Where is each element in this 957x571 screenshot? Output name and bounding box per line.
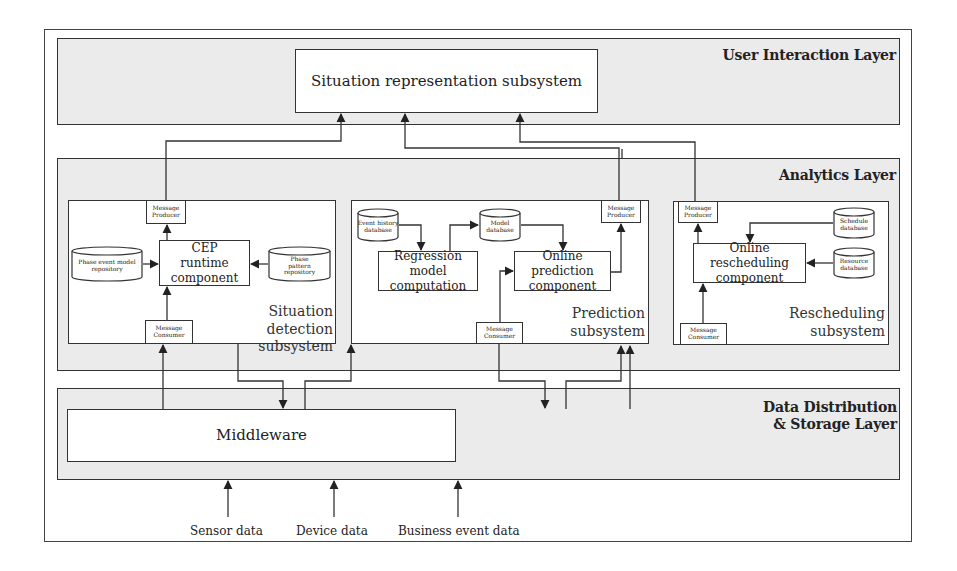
rescheduling-title: Rescheduling subsystem (760, 305, 885, 340)
regression-model-computation: Regression model computation (378, 251, 478, 291)
prediction-title: Prediction subsystem (520, 305, 645, 340)
phase-pattern-repository: Phase pattern repository (268, 246, 331, 282)
analytics-layer-title: Analytics Layer (640, 167, 896, 184)
sd-message-consumer: Message Consumer (145, 320, 193, 344)
sd-message-producer: Message Producer (146, 200, 186, 224)
input-sensor-data: Sensor data (190, 524, 263, 538)
online-prediction-component: Online prediction component (514, 251, 611, 291)
schedule-database: Schedule database (833, 207, 875, 239)
situation-representation-subsystem: Situation representation subsystem (295, 49, 598, 113)
phase-event-model-repository: Phase event model repository (71, 246, 143, 282)
cep-runtime-component: CEP runtime component (159, 240, 250, 286)
input-business-event-data: Business event data (398, 524, 520, 538)
event-history-database: Event history database (357, 208, 399, 242)
model-database: Model database (479, 208, 521, 242)
resched-message-consumer: Message Consumer (680, 323, 727, 345)
online-rescheduling-component: Online rescheduling component (693, 243, 806, 283)
input-device-data: Device data (296, 524, 368, 538)
situation-detection-title: Situation detection subsystem (190, 303, 333, 356)
pred-message-consumer: Message Consumer (476, 322, 523, 344)
pred-message-producer: Message Producer (601, 200, 641, 223)
situation-representation-label: Situation representation subsystem (311, 72, 582, 91)
middleware: Middleware (67, 409, 456, 462)
resched-message-producer: Message Producer (678, 201, 718, 223)
resource-database: Resource database (833, 247, 875, 279)
user-interaction-layer-title: User Interaction Layer (640, 47, 896, 64)
data-distribution-layer-title: Data Distribution & Storage Layer (700, 399, 897, 433)
